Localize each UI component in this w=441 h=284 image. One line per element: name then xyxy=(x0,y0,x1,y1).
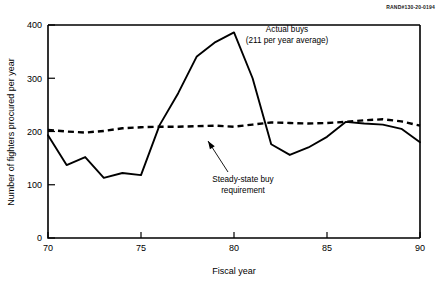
figure-container: RAND#130-20-0194 7075808590 010020030040… xyxy=(0,0,441,284)
y-axis-tick-labels: 0100200300400 xyxy=(27,20,42,243)
y-tick-label: 300 xyxy=(27,74,42,84)
annotation-steady-state: Steady-state buyrequirement xyxy=(212,175,274,195)
line-chart: 7075808590 0100200300400 Actual buys(211… xyxy=(0,0,441,284)
y-tick-label: 0 xyxy=(37,233,42,243)
x-tick-label: 85 xyxy=(322,243,332,253)
chart-axes: 7075808590 0100200300400 xyxy=(27,20,425,253)
y-tick-label: 100 xyxy=(27,180,42,190)
y-axis-title: Number of fighters procured per year xyxy=(6,58,16,206)
y-axis-ticks xyxy=(48,25,55,238)
chart-annotations: Actual buys(211 per year average)Steady-… xyxy=(208,25,329,195)
annotation-actual-buys: Actual buys(211 per year average) xyxy=(246,25,329,45)
x-tick-label: 90 xyxy=(415,243,425,253)
x-tick-label: 80 xyxy=(229,243,239,253)
annotation-arrowhead-steady-state xyxy=(208,141,215,149)
x-tick-label: 75 xyxy=(136,243,146,253)
series-actual-buys xyxy=(48,32,420,177)
series-steady-state-buy-requirement xyxy=(48,119,420,132)
x-axis-tick-labels: 7075808590 xyxy=(43,243,425,253)
x-axis-title: Fiscal year xyxy=(212,266,256,276)
y-tick-label: 400 xyxy=(27,20,42,30)
x-tick-label: 70 xyxy=(43,243,53,253)
x-axis-ticks xyxy=(48,232,420,238)
y-tick-label: 200 xyxy=(27,127,42,137)
chart-series xyxy=(48,32,420,177)
